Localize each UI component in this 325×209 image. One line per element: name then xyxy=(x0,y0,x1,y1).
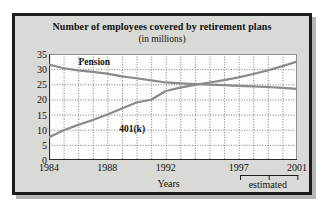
x-tick-label: 2001 xyxy=(287,162,307,173)
y-tick-label: 20 xyxy=(37,94,47,105)
plot-region: Pension401(k) xyxy=(49,54,297,160)
series-label-401k: 401(k) xyxy=(119,124,145,134)
plot-canvas xyxy=(49,54,297,160)
chart-title: Number of employees covered by retiremen… xyxy=(15,21,309,33)
chart-panel: Number of employees covered by retiremen… xyxy=(12,13,312,195)
chart-figure: Number of employees covered by retiremen… xyxy=(0,0,325,209)
x-tick-label: 1992 xyxy=(156,162,176,173)
chart-subtitle: (in millions) xyxy=(15,33,309,45)
x-tick-label: 1997 xyxy=(229,162,249,173)
estimated-label: estimated xyxy=(249,179,287,190)
y-tick-label: 25 xyxy=(37,79,47,90)
y-tick-label: 35 xyxy=(37,49,47,60)
x-tick-label: 1988 xyxy=(97,162,117,173)
chart-title-block: Number of employees covered by retiremen… xyxy=(15,21,309,45)
y-tick-label: 10 xyxy=(37,124,47,135)
y-axis-tick-labels: 05101520253035 xyxy=(21,54,49,160)
series-label-pension: Pension xyxy=(78,57,110,67)
y-tick-label: 5 xyxy=(42,139,47,150)
x-tick-label: 1984 xyxy=(39,162,59,173)
y-tick-label: 30 xyxy=(37,64,47,75)
y-tick-label: 15 xyxy=(37,109,47,120)
x-axis-title: Years xyxy=(157,178,179,189)
